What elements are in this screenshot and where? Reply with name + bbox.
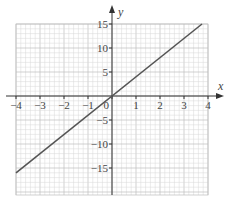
line-chart: xy −4−3−2−10123415105−5−10−15 (0, 0, 228, 200)
x-tick-label: −3 (34, 99, 46, 111)
y-tick-label: 5 (103, 66, 109, 78)
x-axis-label: x (217, 79, 224, 93)
x-tick-label: 3 (181, 99, 187, 111)
y-tick-label: −15 (91, 162, 109, 174)
x-tick-label: −4 (10, 99, 22, 111)
x-tick-label: −1 (82, 99, 94, 111)
y-axis-arrow-icon (109, 5, 115, 13)
y-tick-label: −5 (96, 114, 108, 126)
x-tick-label: 4 (205, 99, 211, 111)
x-tick-label: −2 (58, 99, 70, 111)
y-tick-label: −10 (91, 138, 109, 150)
x-axis-arrow-icon (216, 93, 224, 99)
y-axis-label: y (117, 5, 124, 19)
y-tick-label: 15 (97, 18, 109, 30)
y-tick-label: 10 (97, 42, 109, 54)
x-tick-label: 1 (133, 99, 139, 111)
x-tick-label: 2 (157, 99, 163, 111)
